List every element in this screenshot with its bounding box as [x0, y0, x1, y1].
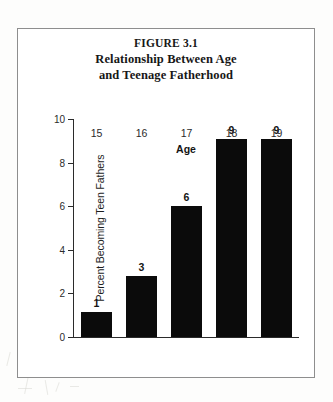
y-axis-tick-label: 2 — [59, 288, 65, 299]
figure-title-1: Relationship Between Age — [18, 51, 314, 67]
bar[interactable] — [81, 312, 113, 337]
bar-value-label: 3 — [126, 261, 158, 273]
figure-number: FIGURE 3.1 — [18, 36, 314, 51]
bar-value-label: 6 — [171, 191, 203, 203]
bar[interactable] — [126, 276, 158, 337]
y-axis-tick-mark — [68, 337, 74, 338]
scan-artifact — [24, 376, 29, 394]
scan-artifact — [18, 388, 32, 389]
x-axis-tick-label: 18 — [209, 127, 254, 139]
scan-artifact — [6, 352, 10, 366]
bar-value-label: 1 — [81, 297, 113, 309]
figure-title-2: and Teenage Fatherhood — [18, 67, 314, 83]
scan-artifact — [70, 386, 79, 387]
x-axis-tick-label: 15 — [74, 127, 119, 139]
plot-area: Percent Becoming Teen Fathers 0246810 13… — [73, 119, 299, 337]
x-axis-tick-label: 16 — [119, 127, 164, 139]
y-axis-tick-label: 6 — [59, 201, 65, 212]
scan-artifact — [45, 380, 49, 395]
y-axis-tick-label: 10 — [54, 114, 65, 125]
x-axis-title: Age — [73, 143, 299, 155]
y-axis-tick-label: 8 — [59, 157, 65, 168]
scan-artifact — [55, 382, 59, 392]
bar[interactable] — [261, 139, 293, 337]
y-axis-tick-label: 4 — [59, 244, 65, 255]
y-axis-tick-label: 0 — [59, 332, 65, 343]
bar[interactable] — [171, 206, 203, 337]
figure-frame: FIGURE 3.1 Relationship Between Age and … — [17, 28, 315, 378]
x-axis-tick-label: 17 — [164, 127, 209, 139]
bar[interactable] — [216, 139, 248, 337]
x-axis-tick-label: 19 — [254, 127, 299, 139]
figure-title-block: FIGURE 3.1 Relationship Between Age and … — [18, 36, 314, 83]
